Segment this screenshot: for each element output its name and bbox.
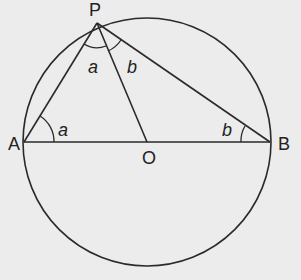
label-O: O	[142, 148, 156, 168]
chord-PB	[97, 23, 270, 142]
label-B: B	[278, 134, 290, 154]
label-A: A	[8, 134, 20, 154]
label-P: P	[89, 0, 101, 20]
angle-arc-B	[241, 126, 245, 142]
angle-arc-P-right	[108, 40, 121, 51]
angle-label-P-right: b	[127, 57, 137, 77]
geometry-figure: P A B O a a b b	[0, 0, 301, 280]
angle-label-P-left: a	[88, 57, 98, 77]
angle-arc-P-left	[84, 44, 106, 48]
angle-arc-A	[40, 116, 54, 142]
diagram: P A B O a a b b	[0, 0, 301, 280]
angle-label-A: a	[58, 120, 68, 140]
angle-label-B: b	[222, 120, 232, 140]
